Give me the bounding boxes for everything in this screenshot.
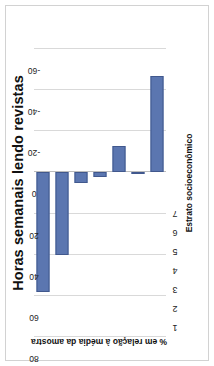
- bar[interactable]: [131, 172, 144, 174]
- bar[interactable]: [93, 172, 106, 176]
- chart-page: Horas semanais lendo revistas 806040200-…: [0, 0, 214, 366]
- y-axis-title: % em relação à média da amostra: [24, 337, 174, 347]
- value-tick-label: -40: [24, 107, 44, 117]
- bar-slot: [128, 49, 147, 337]
- value-tick-label: -20: [24, 148, 44, 158]
- bar[interactable]: [150, 76, 163, 173]
- value-tick-label: 0: [24, 189, 44, 199]
- category-axis-ticks: 1234567: [166, 49, 184, 337]
- bar-slot: [109, 49, 128, 337]
- value-tick-label: -60: [24, 66, 44, 76]
- value-tick-label: 80: [24, 354, 44, 364]
- value-tick-label: 60: [24, 313, 44, 323]
- chart-title: Horas semanais lendo revistas: [10, 7, 26, 359]
- bar[interactable]: [75, 172, 88, 182]
- x-axis-title: Estrato socioeconômico: [184, 7, 194, 359]
- chart-frame: Horas semanais lendo revistas 806040200-…: [5, 5, 209, 361]
- chart: Horas semanais lendo revistas 806040200-…: [8, 7, 206, 359]
- rotated-chart-container: Horas semanais lendo revistas 806040200-…: [8, 7, 206, 359]
- bar-slot: [72, 49, 91, 337]
- bar[interactable]: [112, 146, 125, 173]
- plot-area: [34, 49, 166, 337]
- bar-slot: [53, 49, 72, 337]
- bar[interactable]: [56, 172, 69, 254]
- bar-slot: [91, 49, 110, 337]
- bar-series: [34, 49, 166, 337]
- value-tick-label: 20: [24, 231, 44, 241]
- value-tick-label: 40: [24, 272, 44, 282]
